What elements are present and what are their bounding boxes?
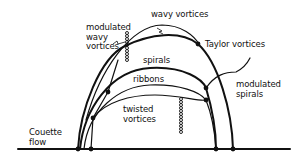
- label-ribbons: ribbons: [133, 75, 164, 85]
- label-couette-flow: Couette flow: [29, 128, 62, 147]
- label-twisted-vortices: twisted vortices: [123, 105, 156, 124]
- ribbons-to-twisted-connector: [91, 92, 108, 149]
- point-spirals-left: [106, 90, 111, 95]
- point-mod-spirals: [204, 86, 209, 91]
- label-modulated-wavy-vortices: modulated wavy vortices: [86, 23, 131, 52]
- point-base-2: [89, 147, 94, 152]
- label-modulated-spirals: modulated spirals: [236, 80, 281, 99]
- taylor-vortices-curve: [78, 35, 233, 149]
- twisted-vortices-chain: [180, 98, 183, 134]
- point-twisted-left: [91, 116, 96, 121]
- label-spirals: spirals: [143, 56, 170, 66]
- label-taylor-vortices: Taylor vortices: [205, 40, 265, 50]
- point-taylor: [196, 42, 201, 47]
- point-twisted-right: [204, 98, 209, 103]
- label-wavy-vortices: wavy vortices: [151, 10, 208, 20]
- point-base-3: [214, 147, 219, 152]
- flow-regime-diagram: wavy vortices modulated wavy vortices Ta…: [0, 0, 300, 160]
- wavy-vortices-leader: [157, 28, 163, 34]
- point-base-1: [76, 147, 81, 152]
- point-base-4: [231, 147, 236, 152]
